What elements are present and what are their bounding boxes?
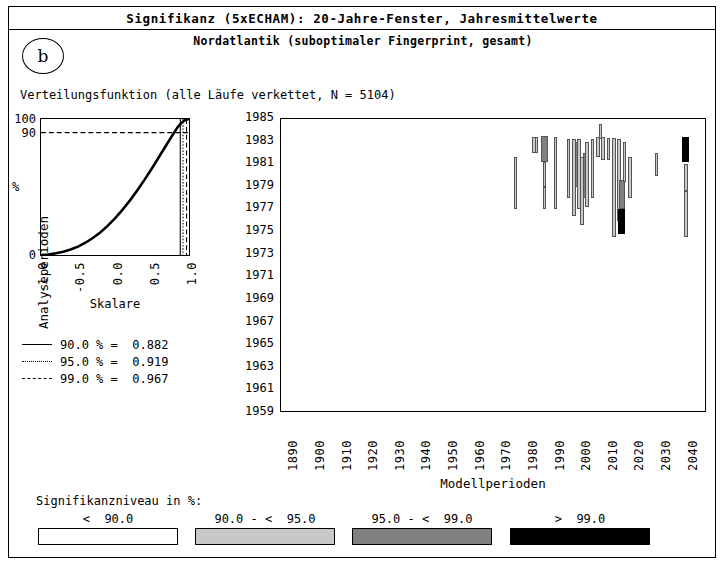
cdf-xtick-3: 0.5 bbox=[148, 262, 162, 285]
cdf-xtick-1: -0.5 bbox=[73, 262, 87, 293]
significance-legend-swatch bbox=[352, 528, 492, 545]
page-title: Signifikanz (5xECHAM): 20-Jahre-Fenster,… bbox=[126, 11, 597, 26]
main-xtick-1970: 1970 bbox=[499, 440, 513, 471]
significance-cell bbox=[628, 157, 631, 198]
panel-label-badge: b bbox=[22, 38, 64, 74]
main-ytick-1971: 1971 bbox=[228, 268, 274, 282]
main-ytick-1977: 1977 bbox=[228, 200, 274, 214]
main-xtick-1910: 1910 bbox=[340, 440, 354, 471]
cdf-axis-label-x: Skalare bbox=[40, 297, 190, 311]
cdf-ytick-0: 0 bbox=[0, 248, 36, 262]
significance-plot-area bbox=[280, 118, 706, 412]
cdf-ytick-90: 90 bbox=[0, 126, 36, 140]
cdf-legend-label: 90.0 % = 0.882 bbox=[60, 338, 168, 352]
main-xtick-1960: 1960 bbox=[473, 440, 487, 471]
significance-legend-item-3: > 99.0 bbox=[510, 512, 650, 545]
main-xtick-1990: 1990 bbox=[553, 440, 567, 471]
cdf-xtick-2: 0.0 bbox=[111, 262, 125, 285]
main-ytick-1969: 1969 bbox=[228, 291, 274, 305]
significance-legend-label: 90.0 - < 95.0 bbox=[195, 512, 335, 528]
significance-cell bbox=[554, 137, 557, 209]
significance-legend-item-1: 90.0 - < 95.0 bbox=[195, 512, 335, 545]
significance-cell bbox=[541, 136, 548, 162]
cdf-legend-label: 95.0 % = 0.919 bbox=[60, 355, 168, 369]
main-xtick-2000: 2000 bbox=[579, 440, 593, 471]
significance-cell bbox=[567, 139, 570, 198]
main-xtick-1940: 1940 bbox=[419, 440, 433, 471]
main-xtick-1890: 1890 bbox=[286, 440, 300, 471]
main-xtick-1980: 1980 bbox=[526, 440, 540, 471]
significance-cell bbox=[596, 137, 599, 157]
cdf-plot-area bbox=[40, 118, 190, 256]
main-axis-label-y: Analyseperioden bbox=[36, 148, 51, 398]
significance-cell bbox=[619, 180, 625, 209]
significance-cell bbox=[585, 142, 588, 208]
significance-cell bbox=[543, 162, 547, 187]
cdf-legend-label: 99.0 % = 0.967 bbox=[60, 372, 168, 386]
significance-cell bbox=[591, 139, 595, 198]
cdf-caption: Verteilungsfunktion (alle Läufe verkette… bbox=[20, 88, 396, 102]
main-ytick-1961: 1961 bbox=[228, 381, 274, 395]
figure-title-bar: Signifikanz (5xECHAM): 20-Jahre-Fenster,… bbox=[9, 7, 715, 30]
main-ytick-1981: 1981 bbox=[228, 155, 274, 169]
significance-cell bbox=[514, 157, 517, 209]
main-xtick-1950: 1950 bbox=[446, 440, 460, 471]
significance-cell bbox=[623, 142, 626, 183]
cdf-xtick-4: 1.0 bbox=[185, 262, 199, 285]
significance-legend-label: > 99.0 bbox=[510, 512, 650, 528]
main-ytick-1979: 1979 bbox=[228, 178, 274, 192]
significance-cell bbox=[682, 137, 689, 162]
significance-cell bbox=[618, 209, 625, 234]
main-xtick-2030: 2030 bbox=[659, 440, 673, 471]
main-xtick-2010: 2010 bbox=[606, 440, 620, 471]
cdf-ytick-100: 100 bbox=[0, 112, 36, 126]
significance-cell bbox=[601, 137, 604, 160]
significance-legend-swatch bbox=[195, 528, 335, 545]
main-ytick-1973: 1973 bbox=[228, 246, 274, 260]
significance-cell bbox=[684, 191, 688, 236]
cdf-axis-label-y: % bbox=[12, 180, 19, 194]
main-ytick-1963: 1963 bbox=[228, 359, 274, 373]
significance-legend-label: < 90.0 bbox=[38, 512, 178, 528]
significance-legend-label: 95.0 - < 99.0 bbox=[352, 512, 492, 528]
main-xtick-1920: 1920 bbox=[366, 440, 380, 471]
main-xtick-1900: 1900 bbox=[313, 440, 327, 471]
significance-legend-item-2: 95.0 - < 99.0 bbox=[352, 512, 492, 545]
cdf-curve bbox=[41, 119, 189, 255]
main-xtick-2020: 2020 bbox=[632, 440, 646, 471]
significance-legend-item-0: < 90.0 bbox=[38, 512, 178, 545]
significance-cell bbox=[543, 187, 546, 210]
significance-cell bbox=[535, 137, 538, 153]
cdf-curve-svg bbox=[41, 119, 189, 255]
main-ytick-1983: 1983 bbox=[228, 133, 274, 147]
figure-subtitle: Nordatlantik (suboptimaler Fingerprint, … bbox=[0, 34, 726, 48]
significance-legend-swatch bbox=[38, 528, 178, 545]
main-ytick-1967: 1967 bbox=[228, 314, 274, 328]
main-xtick-1930: 1930 bbox=[393, 440, 407, 471]
significance-cell bbox=[684, 164, 688, 191]
significance-cell bbox=[607, 138, 611, 159]
main-ytick-1975: 1975 bbox=[228, 223, 274, 237]
main-ytick-1959: 1959 bbox=[228, 404, 274, 418]
significance-legend-swatch bbox=[510, 528, 650, 545]
main-ytick-1965: 1965 bbox=[228, 336, 274, 350]
panel-label-text: b bbox=[38, 46, 49, 66]
significance-legend-title: Signifikanzniveau in %: bbox=[36, 494, 202, 508]
main-axis-label-x: Modellperioden bbox=[280, 476, 706, 491]
main-ytick-1985: 1985 bbox=[228, 110, 274, 124]
main-xtick-2040: 2040 bbox=[686, 440, 700, 471]
significance-cell bbox=[655, 153, 658, 176]
significance-cell bbox=[612, 138, 616, 236]
